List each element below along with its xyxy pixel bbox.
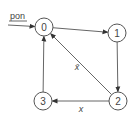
state-label: 3	[40, 96, 46, 107]
state-diagram: 0123 ponx̄x	[0, 0, 132, 125]
state-node-0: 0	[35, 18, 53, 36]
edge-label-start-0: pon	[10, 11, 25, 21]
edge-3-to-0	[43, 36, 44, 92]
edge-label-2-3: x	[78, 104, 84, 114]
state-node-2: 2	[109, 92, 127, 110]
state-label: 1	[114, 28, 120, 39]
state-label: 2	[115, 96, 121, 107]
state-node-3: 3	[34, 92, 52, 110]
edge-0-to-1	[53, 28, 108, 32]
edge-2-to-0	[51, 34, 112, 95]
state-label: 0	[41, 22, 47, 33]
edge-start-to-0	[8, 25, 35, 26]
state-node-1: 1	[108, 24, 126, 42]
edge-1-to-2	[117, 42, 118, 92]
edge-label-2-0: x̄	[74, 62, 80, 72]
